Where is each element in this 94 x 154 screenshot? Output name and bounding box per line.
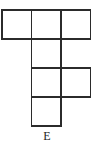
cell-r3c3 bbox=[61, 68, 91, 97]
net-cell-group bbox=[2, 10, 91, 126]
cell-r3c2 bbox=[32, 68, 62, 97]
cell-r4c2 bbox=[32, 97, 62, 126]
figure-label: E bbox=[0, 129, 94, 143]
cell-r1c2 bbox=[32, 10, 62, 39]
cell-r2c2 bbox=[32, 39, 62, 68]
cell-r1c1 bbox=[2, 10, 32, 39]
figure-container: E bbox=[0, 0, 94, 154]
cell-r1c3 bbox=[61, 10, 91, 39]
